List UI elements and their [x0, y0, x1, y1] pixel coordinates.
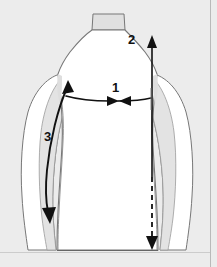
measure-label-2: 2: [128, 33, 135, 46]
measure-label-1: 1: [112, 81, 119, 94]
torso-outline: [57, 30, 158, 250]
measure-label-3: 3: [44, 130, 51, 143]
neck-collar: [92, 14, 125, 30]
measurement-diagram: 1 2 3: [0, 0, 217, 267]
body-measurement-illustration: [0, 0, 217, 267]
